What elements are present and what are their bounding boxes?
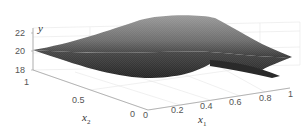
surface-plot — [0, 0, 305, 132]
x2-tick-1: 1 — [24, 78, 29, 87]
x2-axis-label: x2 — [82, 112, 90, 126]
x2-tick-0.5: 0.5 — [72, 96, 85, 105]
z-tick-20: 20 — [15, 47, 25, 56]
x2-tick-0: 0 — [130, 110, 135, 119]
z-axis-label: y — [38, 23, 43, 34]
x1-tick-0: 0 — [143, 111, 148, 120]
x1-tick-1: 1 — [288, 90, 293, 99]
z-tick-22: 22 — [15, 29, 25, 38]
x1-tick-0.4: 0.4 — [200, 102, 213, 111]
x1-tick-0.2: 0.2 — [171, 106, 184, 115]
z-tick-18: 18 — [15, 66, 25, 75]
x1-tick-0.6: 0.6 — [229, 98, 242, 107]
x1-tick-0.8: 0.8 — [259, 94, 272, 103]
x1-axis-label: x1 — [198, 114, 206, 128]
